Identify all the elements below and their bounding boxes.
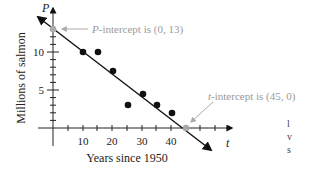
edge-text-fragment: v bbox=[287, 131, 292, 142]
data-point bbox=[154, 102, 161, 109]
salmon-scatter-chart: 10 20 30 40 t Years since 1950 5 10 P Mi… bbox=[0, 0, 313, 172]
y-tick-label-10: 10 bbox=[33, 46, 45, 58]
p-intercept-marker bbox=[50, 26, 57, 33]
x-tick-label-20: 20 bbox=[107, 135, 119, 147]
x-axis-variable: t bbox=[226, 136, 230, 150]
x-axis: 10 20 30 40 t Years since 1950 bbox=[38, 125, 232, 165]
t-intercept-marker bbox=[183, 125, 190, 132]
x-axis-label: Years since 1950 bbox=[86, 151, 167, 165]
x-tick-label-10: 10 bbox=[78, 135, 90, 147]
svg-text:t-intercept is (45, 0): t-intercept is (45, 0) bbox=[208, 90, 296, 103]
data-point bbox=[169, 110, 176, 117]
p-intercept-text: -intercept is (0, 13) bbox=[99, 23, 184, 36]
svg-text:P-intercept is (0, 13): P-intercept is (0, 13) bbox=[91, 23, 183, 36]
data-points bbox=[80, 49, 176, 117]
edge-text-fragment: s bbox=[287, 144, 291, 155]
t-intercept-text: -intercept is (45, 0) bbox=[211, 90, 296, 103]
y-axis-variable: P bbox=[41, 1, 50, 15]
y-axis: 5 10 P Millions of salmon bbox=[14, 1, 59, 146]
data-point bbox=[95, 49, 102, 56]
data-point bbox=[125, 102, 132, 109]
x-tick-label-40: 40 bbox=[166, 135, 178, 147]
y-axis-label: Millions of salmon bbox=[14, 32, 28, 123]
t-intercept-annotation: t-intercept is (45, 0) bbox=[191, 90, 296, 122]
edge-text-fragment: l bbox=[287, 118, 290, 129]
p-intercept-annotation: P-intercept is (0, 13) bbox=[62, 23, 183, 36]
x-tick-label-30: 30 bbox=[137, 135, 149, 147]
data-point bbox=[140, 91, 147, 98]
data-point bbox=[110, 68, 117, 75]
data-point bbox=[80, 49, 87, 56]
y-tick-label-5: 5 bbox=[39, 84, 45, 96]
